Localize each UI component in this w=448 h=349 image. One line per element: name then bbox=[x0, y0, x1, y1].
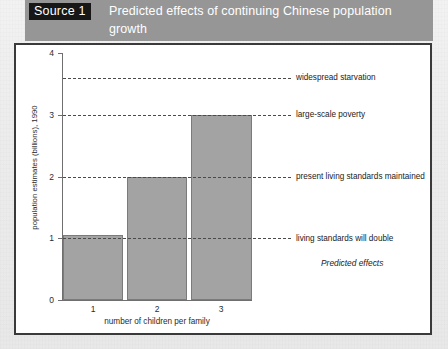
reference-label-widespread-starvation: widespread starvation bbox=[296, 73, 376, 82]
y-tick-label-0: 0 bbox=[40, 296, 54, 304]
y-tick-4 bbox=[58, 53, 63, 54]
y-tick-label-2: 2 bbox=[40, 173, 54, 181]
chart-panel: 4 3 2 1 0 population estimates (billions… bbox=[14, 43, 432, 335]
x-tick-label-2: 2 bbox=[147, 304, 167, 314]
bar-chart: 4 3 2 1 0 population estimates (billions… bbox=[16, 45, 430, 333]
bar-3-children bbox=[191, 115, 252, 300]
bar-1-child bbox=[63, 235, 123, 300]
x-axis-title: number of children per family bbox=[62, 317, 252, 326]
reference-line-widespread-starvation bbox=[63, 78, 291, 79]
y-tick-label-3: 3 bbox=[40, 111, 54, 119]
reference-line-large-scale-poverty bbox=[63, 115, 291, 116]
y-axis-title: population estimates (billions), 1990 bbox=[30, 88, 39, 248]
chart-caption: Predicted effects bbox=[321, 258, 383, 268]
reference-line-living-standards-double bbox=[63, 238, 291, 239]
x-axis-line bbox=[62, 300, 252, 301]
y-tick-label-1: 1 bbox=[40, 234, 54, 242]
reference-label-large-scale-poverty: large-scale poverty bbox=[296, 110, 365, 119]
source-tag: Source 1 bbox=[29, 3, 91, 20]
source-header-banner: Source 1 Predicted effects of continuing… bbox=[25, 0, 433, 41]
page-root: Source 1 Predicted effects of continuing… bbox=[0, 0, 448, 349]
x-tick-label-1: 1 bbox=[83, 304, 103, 314]
x-tick-label-3: 3 bbox=[211, 304, 231, 314]
y-tick-label-4: 4 bbox=[40, 49, 54, 57]
reference-label-living-standards-double: living standards will double bbox=[296, 234, 393, 243]
reference-line-present-living-standards bbox=[63, 177, 291, 178]
reference-label-present-living-standards: present living standards maintained bbox=[296, 172, 425, 181]
page-title: Predicted effects of continuing Chinese … bbox=[109, 2, 424, 38]
y-tick-0 bbox=[58, 300, 63, 301]
